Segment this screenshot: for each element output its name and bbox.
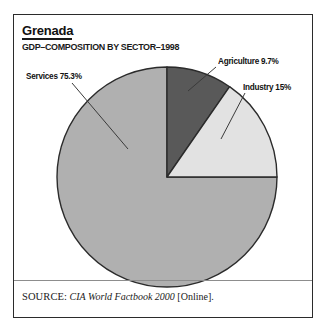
slice-label-industry: Industry 15%	[243, 82, 291, 92]
source-divider	[14, 280, 312, 281]
source-suffix: [Online].	[177, 291, 213, 302]
source-label: SOURCE:	[22, 291, 67, 302]
source-note: SOURCE: CIA World Factbook 2000 [Online]…	[22, 291, 214, 302]
pie-chart	[0, 0, 328, 332]
source-title: CIA World Factbook 2000	[70, 291, 175, 302]
slice-label-services: Services 75.3%	[26, 71, 82, 81]
chart-figure: Grenada GDP–COMPOSITION BY SECTOR–1998 S…	[0, 0, 328, 332]
slice-label-agriculture: Agriculture 9.7%	[218, 56, 279, 66]
